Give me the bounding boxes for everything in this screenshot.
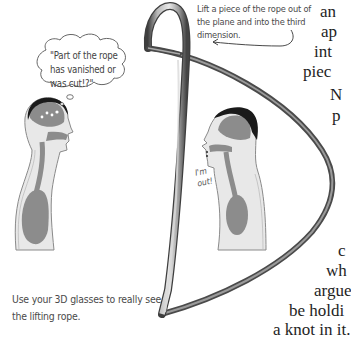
body-text-line: ap [321, 22, 337, 43]
left-person-figure [15, 98, 73, 250]
body-text-line: be holdi [289, 301, 344, 322]
rope-lifted-section [148, 6, 187, 314]
body-text-line: argue [314, 281, 351, 302]
body-text-line: a knot in it. [273, 320, 350, 338]
body-text-line: p [332, 106, 341, 127]
thought-bubble-text: "Part of the rope has vanished or was cu… [50, 49, 130, 91]
body-text-line: int [314, 42, 332, 63]
body-text-line: c [338, 241, 346, 262]
body-text-line: an [320, 2, 336, 23]
body-text-line: piec [303, 62, 331, 83]
lift-rope-caption: Lift a piece of the rope out of the plan… [197, 2, 315, 41]
body-text-line: N [330, 85, 342, 106]
glasses-caption: Use your 3D glasses to really see the li… [12, 291, 162, 325]
body-text-line: wh [326, 261, 347, 282]
